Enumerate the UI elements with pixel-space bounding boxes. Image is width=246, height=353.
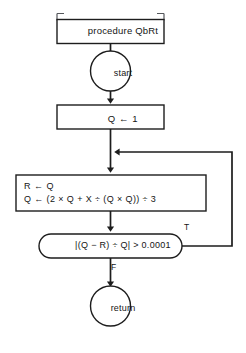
- condition-node-label: |(Q − R) ÷ Q| > 0.0001: [0, 240, 246, 250]
- compute-node-line2: Q ← (2 × Q + X ÷ (Q × Q)) ÷ 3: [24, 194, 156, 204]
- initialize-node-label: Q ← 1: [0, 113, 246, 124]
- flowchart-diagram: procedure QbRt start Q ← 1 R ← Q Q ← (2 …: [0, 0, 246, 353]
- compute-node-line1: R ← Q: [24, 181, 54, 191]
- branch-label-true: T: [184, 222, 189, 232]
- branch-label-false: F: [111, 262, 116, 272]
- procedure-title-label: procedure QbRt: [0, 25, 246, 36]
- start-node-label: start: [0, 68, 246, 78]
- flowchart-canvas: [0, 0, 246, 353]
- return-node-label: return: [0, 303, 246, 313]
